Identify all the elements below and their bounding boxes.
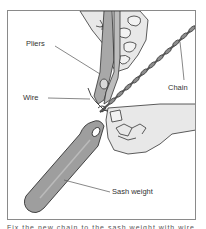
sash-weight-icon xyxy=(24,121,104,213)
sash-weight-illustration xyxy=(0,0,206,229)
label-wire: Wire xyxy=(23,94,38,102)
chain-leader-line xyxy=(180,42,184,80)
label-sash-weight: Sash weight xyxy=(112,188,153,196)
lower-hand-icon xyxy=(106,104,196,154)
wire-leader-line xyxy=(48,98,90,99)
illustration-figure: Pliers Wire Chain Sash weight Fix the ne… xyxy=(0,0,206,229)
sash-weight-leader-line xyxy=(64,180,110,192)
pliers-leader-line xyxy=(55,46,100,74)
label-pliers: Pliers xyxy=(26,40,45,48)
label-chain: Chain xyxy=(168,84,188,92)
figure-caption: Fix the new chain to the sash weight wit… xyxy=(7,224,195,229)
